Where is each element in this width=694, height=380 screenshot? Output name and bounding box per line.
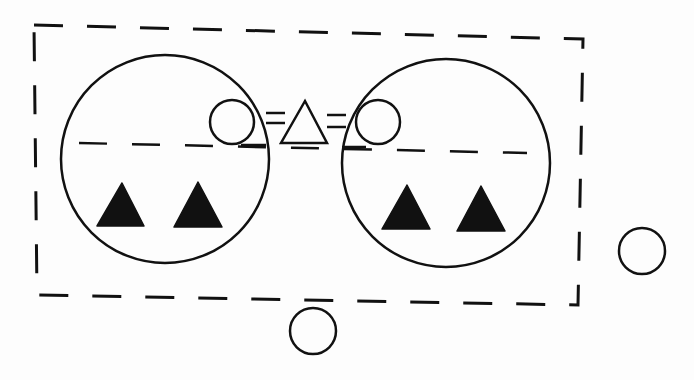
male-triangle-outline [281,101,327,143]
left-group-filled-triangle-1 [174,182,222,227]
kinship-diagram [0,0,694,380]
right-group-filled-triangle-0 [382,185,430,229]
dashed-divider-line [79,143,527,153]
right-group-filled-triangle-1 [457,186,505,231]
outside-bottom-circle [290,308,336,354]
left-group-filled-triangle-0 [97,183,144,226]
outside-right-circle [619,228,665,274]
diagram-canvas [0,0,694,380]
right-group-circle [342,59,550,267]
left-group-circle [61,55,269,263]
female-circle-left [210,100,254,144]
female-circle-right [356,100,400,144]
